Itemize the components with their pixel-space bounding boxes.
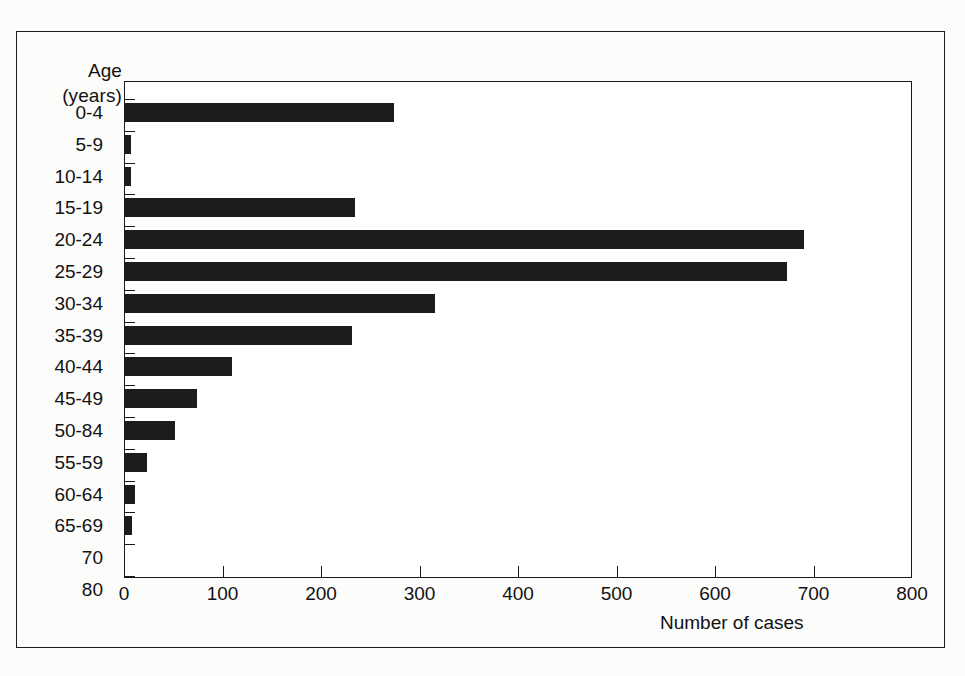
y-axis-tick — [124, 449, 135, 450]
y-axis-tick — [124, 258, 135, 259]
y-axis-tick-label: 35-39 — [0, 320, 112, 352]
x-axis-title: Number of cases — [660, 612, 804, 634]
bar — [124, 135, 131, 154]
y-axis-tick-label: 55-59 — [0, 447, 112, 479]
figure-page: Age (years) 0-45-910-1415-1920-2425-2930… — [0, 0, 965, 676]
bar — [124, 516, 132, 535]
y-axis-tick-label: 70 — [0, 542, 112, 574]
bar — [124, 485, 135, 504]
y-axis-tick-label: 30-34 — [0, 288, 112, 320]
x-axis-tick-label: 500 — [601, 583, 633, 605]
y-axis-tick — [124, 576, 135, 577]
y-axis-tick-label: 25-29 — [0, 256, 112, 288]
y-axis-tick — [124, 544, 135, 545]
y-axis-tick — [124, 512, 135, 513]
y-axis-tick — [124, 481, 135, 482]
y-axis-tick-label: 60-64 — [0, 479, 112, 511]
y-axis-tick — [124, 194, 135, 195]
x-axis-tick-label: 700 — [798, 583, 830, 605]
x-axis-tick — [321, 566, 322, 578]
bar — [124, 198, 355, 217]
x-axis-tick-label: 0 — [119, 583, 130, 605]
y-axis-tick — [124, 290, 135, 291]
bar — [124, 453, 147, 472]
bar — [124, 230, 804, 249]
x-axis-tick — [223, 566, 224, 578]
bar — [124, 294, 435, 313]
bar — [124, 167, 131, 186]
x-axis-tick — [715, 566, 716, 578]
y-axis-tick-label: 65-69 — [0, 510, 112, 542]
y-axis-tick — [124, 163, 135, 164]
x-axis-tick-label: 600 — [699, 583, 731, 605]
y-axis-tick-label: 15-19 — [0, 192, 112, 224]
y-axis-tick-label: 10-14 — [0, 161, 112, 193]
y-axis-tick-label: 5-9 — [0, 129, 112, 161]
bar — [124, 326, 352, 345]
y-axis-tick — [124, 322, 135, 323]
y-axis-tick — [124, 353, 135, 354]
x-axis-tick-label: 300 — [404, 583, 436, 605]
y-axis-tick — [124, 417, 135, 418]
y-axis-tick-label: 50-84 — [0, 415, 112, 447]
bar — [124, 357, 232, 376]
bar — [124, 262, 787, 281]
bar — [124, 103, 394, 122]
y-axis-tick — [124, 99, 135, 100]
y-axis-tick — [124, 226, 135, 227]
y-axis-tick-label: 45-49 — [0, 383, 112, 415]
y-axis-tick — [124, 131, 135, 132]
x-axis-tick-label: 800 — [896, 583, 928, 605]
y-axis-tick-label: 0-4 — [0, 97, 112, 129]
x-axis-tick-label: 100 — [207, 583, 239, 605]
x-axis-tick-label: 400 — [502, 583, 534, 605]
y-axis-tick — [124, 385, 135, 386]
y-axis-title-line-1: Age — [40, 58, 122, 83]
x-axis-tick — [420, 566, 421, 578]
bar — [124, 389, 197, 408]
x-axis-tick-label: 200 — [305, 583, 337, 605]
y-axis-tick-label: 80 — [0, 574, 112, 606]
y-axis-tick-label: 20-24 — [0, 224, 112, 256]
y-axis-tick-label: 40-44 — [0, 351, 112, 383]
x-axis-tick — [814, 566, 815, 578]
horizontal-bar-chart: Age (years) 0-45-910-1415-1920-2425-2930… — [0, 0, 965, 676]
bar — [124, 421, 175, 440]
x-axis-tick — [518, 566, 519, 578]
x-axis-tick — [617, 566, 618, 578]
